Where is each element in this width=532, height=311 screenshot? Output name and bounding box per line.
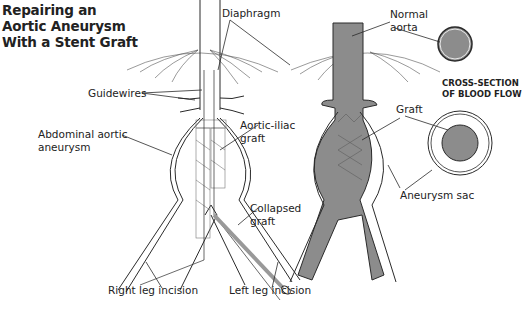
title-line-1: Repairing an: [2, 2, 138, 18]
label-guidewires: Guidewires: [88, 87, 146, 100]
label-graft: Graft: [396, 103, 423, 116]
page-title: Repairing an Aortic Aneurysm With a Sten…: [2, 2, 138, 50]
label-right-leg-incision: Right leg incision: [108, 284, 198, 297]
label-collapsed-graft: Collapsed graft: [250, 202, 301, 228]
diaphragm-left: [127, 50, 278, 84]
diaphragm-right: [291, 52, 440, 82]
title-line-2: Aortic Aneurysm: [2, 18, 138, 34]
label-diaphragm: Diaphragm: [222, 7, 280, 20]
normal-cross-section: [438, 27, 472, 61]
label-normal-aorta: Normal aorta: [390, 8, 428, 34]
label-abdominal-aortic-aneurysm: Abdominal aortic aneurysm: [38, 128, 127, 154]
aorta-left: [200, 0, 220, 110]
label-aortic-iliac-graft: Aortic-iliac graft: [240, 119, 295, 145]
normal-aorta: [298, 23, 384, 280]
label-aneurysm-sac: Aneurysm sac: [400, 189, 474, 202]
diagram: Repairing an Aortic Aneurysm With a Sten…: [0, 0, 532, 311]
title-line-3: With a Stent Graft: [2, 34, 138, 50]
cross-section-heading: CROSS-SECTION OF BLOOD FLOW: [442, 78, 522, 100]
label-left-leg-incision: Left leg incision: [229, 284, 311, 297]
